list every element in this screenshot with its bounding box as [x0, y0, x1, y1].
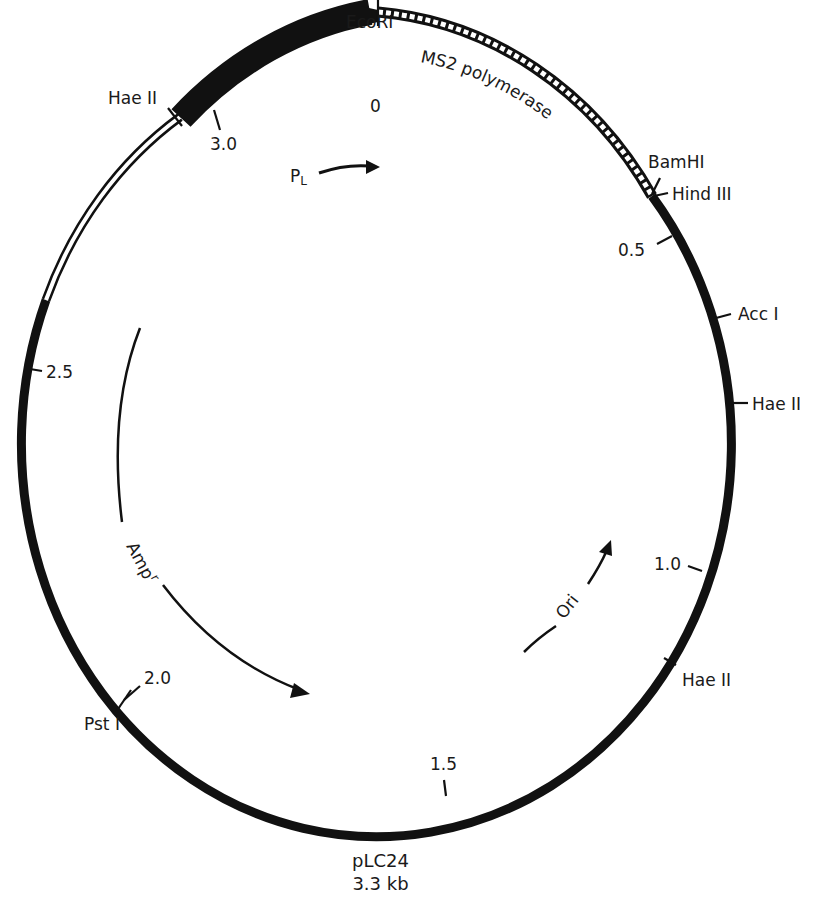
scale-label-1-5: 1.5	[430, 754, 457, 774]
label-haeii-right: Hae II	[752, 394, 801, 414]
ampr-arrowhead	[290, 683, 310, 698]
plasmid-size: 3.3 kb	[0, 873, 790, 894]
scale-label-1-0: 1.0	[654, 554, 681, 574]
tick-3-0	[214, 110, 220, 130]
label-haeii-top: Hae II	[108, 88, 157, 108]
pl-arrowhead	[366, 160, 380, 174]
site-tick-acci	[716, 314, 731, 318]
scale-label-2-5: 2.5	[46, 362, 73, 382]
label-psti: Pst I	[84, 714, 120, 734]
ori-arrowhead	[599, 540, 612, 556]
backbone-arc	[21, 196, 731, 837]
tick-1-0	[688, 566, 702, 571]
scale-label-3-0: 3.0	[210, 134, 237, 154]
tick-1-5	[444, 780, 446, 796]
ori-arrow-lower	[524, 626, 556, 652]
label-haeii-lower: Hae II	[682, 670, 731, 690]
plasmid-map: EcoRI BamHI Hind III Acc I Hae II Hae II…	[0, 0, 819, 908]
label-ampr: Ampr	[122, 538, 162, 587]
scale-label-0: 0	[370, 96, 381, 116]
site-tick-psti	[116, 690, 131, 712]
label-pl: PL	[290, 166, 307, 188]
ampr-arrow-upper	[118, 328, 140, 522]
label-ori: Ori	[551, 590, 582, 622]
label-acci: Acc I	[738, 304, 778, 324]
pl-arrow	[319, 166, 370, 173]
ms2-polymerase-hatching	[378, 12, 652, 196]
label-bamhi: BamHI	[648, 152, 704, 172]
scale-label-2-0: 2.0	[144, 668, 171, 688]
plasmid-name: pLC24	[0, 850, 790, 871]
open-segment-inner	[46, 117, 180, 300]
scale-label-0-5: 0.5	[618, 240, 645, 260]
label-ecori: EcoRI	[346, 12, 393, 32]
ori-arrow-upper	[588, 550, 607, 584]
ampr-arrow-lower	[163, 585, 300, 690]
site-tick-bamhi	[652, 178, 660, 194]
tick-0-5	[657, 236, 672, 244]
ms2-polymerase-segment	[378, 12, 652, 196]
label-hindiii: Hind III	[672, 184, 732, 204]
open-segment-outer	[46, 117, 180, 300]
pl-region-segment	[181, 12, 370, 118]
label-ms2-polymerase: MS2 polymerase	[419, 46, 557, 123]
